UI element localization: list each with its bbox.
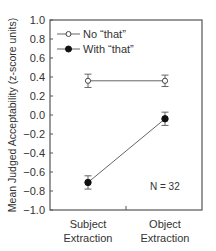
y-tick-label: −0.2 bbox=[23, 128, 45, 140]
y-tick-label: −0.8 bbox=[23, 185, 45, 197]
y-axis-title: Mean Judged Acceptability (z-score units… bbox=[6, 18, 18, 212]
y-tick-label: 0.4 bbox=[30, 71, 45, 83]
series-with-that bbox=[85, 112, 169, 189]
series-line bbox=[88, 119, 165, 183]
y-tick-label: 0.2 bbox=[30, 90, 45, 102]
y-tick-label: 0.8 bbox=[30, 33, 45, 45]
y-axis-ticks: 1.00.80.60.40.20.0−0.2−0.4−0.6−0.8−1.0 bbox=[23, 14, 53, 216]
y-tick-label: 0.0 bbox=[30, 109, 45, 121]
series-layer bbox=[85, 74, 169, 189]
series-no-that bbox=[85, 74, 169, 87]
x-category-label: Extraction bbox=[141, 232, 190, 244]
legend-label: With “that” bbox=[83, 43, 134, 55]
x-category-label: Subject bbox=[70, 218, 107, 230]
y-tick-label: −0.4 bbox=[23, 147, 45, 159]
legend-filled-circle-icon bbox=[66, 46, 72, 52]
legend-open-circle-icon bbox=[66, 32, 71, 37]
x-category-label: Object bbox=[149, 218, 181, 230]
x-axis-ticks: SubjectExtractionObjectExtraction bbox=[64, 206, 190, 244]
y-tick-label: −1.0 bbox=[23, 204, 45, 216]
filled-circle-marker bbox=[162, 116, 168, 122]
open-circle-marker bbox=[85, 78, 90, 83]
open-circle-marker bbox=[162, 78, 167, 83]
legend: No “that”With “that” bbox=[57, 28, 134, 55]
line-chart: 1.00.80.60.40.20.0−0.2−0.4−0.6−0.8−1.0 S… bbox=[0, 0, 216, 251]
sample-size-annotation: N = 32 bbox=[150, 181, 180, 192]
filled-circle-marker bbox=[85, 179, 91, 185]
y-tick-label: 0.6 bbox=[30, 52, 45, 64]
x-category-label: Extraction bbox=[64, 232, 113, 244]
y-tick-label: 1.0 bbox=[30, 14, 45, 26]
legend-label: No “that” bbox=[83, 28, 126, 40]
y-tick-label: −0.6 bbox=[23, 166, 45, 178]
